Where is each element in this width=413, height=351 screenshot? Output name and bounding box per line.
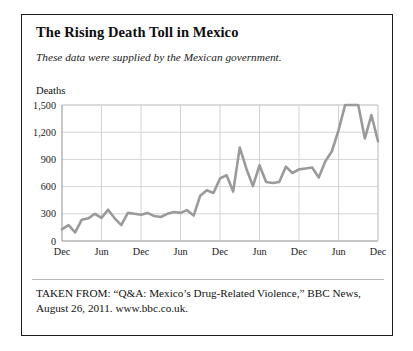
y-axis-label: Deaths [36,85,65,96]
x-tick-label: Jun [331,246,345,257]
x-tick-labels-group: DecJun2007DecJun2008DecJun2009DecJun2010… [54,246,387,261]
x-tick-year-label: 2007 [91,259,111,261]
y-tick-label: 1,500 [33,101,56,111]
figure-panel: The Rising Death Toll in Mexico These da… [21,14,393,336]
gridlines-group [62,105,378,241]
y-tick-label: 1,200 [33,127,56,138]
x-tick-label: Dec [54,246,71,257]
x-tick-label: Dec [212,246,229,257]
caption-divider [32,279,384,280]
y-tick-labels-group: 03006009001,2001,500 [33,101,56,247]
line-chart: 03006009001,2001,500 DecJun2007DecJun200… [22,101,394,261]
x-tick-label: Dec [291,246,308,257]
x-tick-label: Dec [133,246,150,257]
x-tick-year-label: 2010 [328,259,348,261]
y-tick-label: 600 [41,181,56,192]
chart-plot-area: 03006009001,2001,500 DecJun2007DecJun200… [22,101,394,261]
x-tick-year-label: 2008 [170,259,190,261]
x-tick-label: Dec [370,246,387,257]
figure-subtitle: These data were supplied by the Mexican … [36,51,282,63]
y-tick-label: 900 [41,154,56,165]
page-title: The Rising Death Toll in Mexico [36,24,239,41]
x-tick-label: Jun [94,246,108,257]
y-tick-label: 0 [51,236,56,247]
source-caption: TAKEN FROM: “Q&A: Mexico’s Drug-Related … [36,286,380,317]
x-tick-year-label: 2009 [249,259,269,261]
y-tick-label: 300 [41,208,56,219]
x-tick-label: Jun [173,246,187,257]
x-tick-label: Jun [252,246,266,257]
